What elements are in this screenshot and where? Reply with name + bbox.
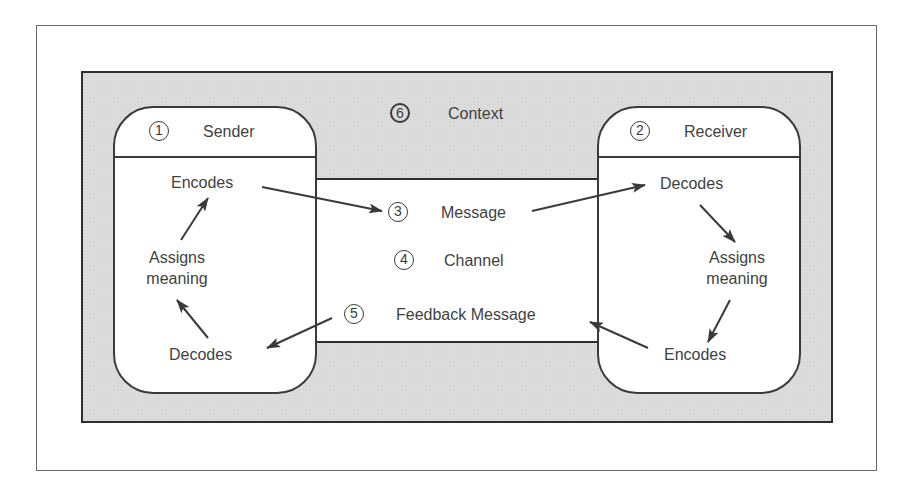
sender-number-badge: 1 bbox=[149, 121, 169, 141]
sender-label: Sender bbox=[203, 124, 255, 140]
sender-assigns-line1: Assigns bbox=[149, 249, 205, 266]
message-number-badge: 3 bbox=[388, 202, 408, 222]
message-label: Message bbox=[441, 205, 506, 221]
feedback-number-badge: 5 bbox=[344, 304, 364, 324]
sender-encodes-step: Encodes bbox=[171, 175, 233, 191]
receiver-encodes-step: Encodes bbox=[664, 347, 726, 363]
context-label: Context bbox=[448, 106, 503, 122]
sender-assigns-line2: meaning bbox=[146, 270, 207, 287]
sender-assigns-step: Assigns meaning bbox=[142, 250, 212, 292]
sender-decodes-step: Decodes bbox=[169, 347, 232, 363]
receiver-label: Receiver bbox=[684, 124, 747, 140]
context-number-badge: 6 bbox=[390, 103, 410, 123]
receiver-decodes-step: Decodes bbox=[660, 176, 723, 192]
channel-label: Channel bbox=[444, 253, 504, 269]
feedback-message-label: Feedback Message bbox=[396, 307, 536, 323]
receiver-assigns-line2: meaning bbox=[706, 270, 767, 287]
receiver-number-badge: 2 bbox=[630, 121, 650, 141]
channel-number-badge: 4 bbox=[394, 250, 414, 270]
receiver-assigns-line1: Assigns bbox=[709, 249, 765, 266]
receiver-assigns-step: Assigns meaning bbox=[697, 250, 777, 292]
